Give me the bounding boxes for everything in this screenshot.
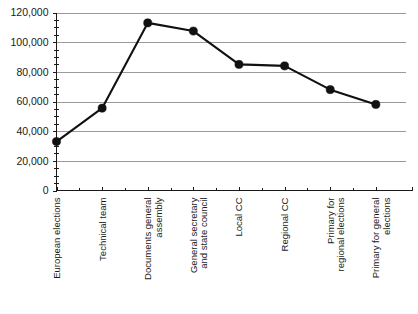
x-axis-tick-label-line: General secretary bbox=[188, 197, 199, 273]
x-axis-tick-label: Primary for generalelections bbox=[370, 197, 392, 278]
x-axis-tick-label-line: European elections bbox=[51, 197, 62, 279]
x-axis-tick-label-line: Documents general bbox=[142, 198, 153, 280]
x-axis-tick-label-line: Primary for bbox=[325, 198, 336, 244]
x-axis-tick-label: Technical team bbox=[97, 197, 108, 260]
x-axis-tick-label-line: assembly bbox=[153, 197, 164, 237]
data-point-marker bbox=[372, 100, 380, 108]
chart-canvas: 020,00040,00060,00080,000100,000120,000 … bbox=[0, 0, 418, 314]
x-axis-tick-label: European elections bbox=[51, 197, 62, 279]
x-axis-tick-label-line: regional elections bbox=[335, 197, 346, 271]
y-axis-tick-label: 20,000 bbox=[16, 155, 48, 167]
x-axis-tick-label: General secretaryand state council bbox=[188, 197, 210, 273]
x-axis-tick-label-line: Local CC bbox=[233, 197, 244, 236]
data-point-marker bbox=[144, 19, 152, 27]
y-axis-tick-label: 40,000 bbox=[16, 125, 48, 137]
data-point-marker bbox=[52, 137, 60, 145]
y-axis-tick-label: 60,000 bbox=[16, 95, 48, 107]
x-axis-tick-label-line: Technical team bbox=[97, 197, 108, 260]
data-point-marker bbox=[98, 104, 106, 112]
x-axis-tick-label-line: and state council bbox=[198, 198, 209, 269]
y-axis-tick-label: 120,000 bbox=[11, 6, 49, 18]
x-axis-tick-label-line: Regional CC bbox=[279, 197, 290, 251]
data-point-marker bbox=[189, 27, 197, 35]
data-point-marker bbox=[235, 60, 243, 68]
data-point-marker bbox=[326, 86, 334, 94]
x-axis-tick-label-line: elections bbox=[381, 197, 392, 235]
x-axis-tick-label: Local CC bbox=[233, 197, 244, 236]
data-series-line bbox=[57, 23, 376, 142]
gridlines-group bbox=[57, 14, 406, 162]
data-point-marker bbox=[281, 62, 289, 70]
x-axis-tick-label: Regional CC bbox=[279, 197, 290, 251]
y-tick-labels-group: 020,00040,00060,00080,000100,000120,000 bbox=[11, 6, 49, 196]
data-point-markers-group bbox=[52, 19, 380, 146]
x-axis-tick-label: Primary forregional elections bbox=[325, 197, 347, 271]
x-axis-tick-label-line: Primary for general bbox=[370, 198, 381, 279]
x-tick-labels-group: European electionsTechnical teamDocument… bbox=[51, 197, 392, 280]
y-axis-tick-label: 100,000 bbox=[11, 36, 49, 48]
y-axis-tick-label: 80,000 bbox=[16, 66, 48, 78]
line-chart: 020,00040,00060,00080,000100,000120,000 … bbox=[0, 0, 418, 314]
y-axis-tick-label: 0 bbox=[43, 184, 49, 196]
x-axis-tick-label: Documents generalassembly bbox=[142, 197, 164, 280]
